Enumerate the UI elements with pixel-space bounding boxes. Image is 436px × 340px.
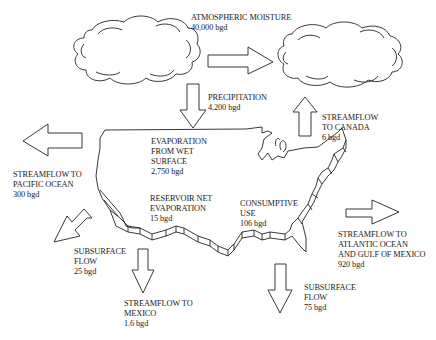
- arrow-subsurface-west-icon: [54, 209, 92, 242]
- label-reservoir-evaporation: RESERVOIR NET EVAPORATION 15 bgd: [150, 194, 212, 224]
- arrow-atmospheric-moisture-icon: [208, 47, 273, 74]
- us-map-outline: [96, 127, 346, 256]
- cloud-right-icon: [278, 22, 402, 87]
- label-streamflow-atlantic: STREAMFLOW TO ATLANTIC OCEAN AND GULF OF…: [338, 230, 425, 270]
- label-consumptive-use: CONSUMPTIVE USE 106 bgd: [240, 199, 298, 229]
- label-precipitation: PRECIPITATION 4,200 bgd: [208, 93, 267, 113]
- cloud-left-icon: [74, 16, 200, 84]
- arrow-streamflow-canada-icon: [293, 97, 317, 136]
- label-streamflow-pacific: STREAMFLOW TO PACIFIC OCEAN 300 bgd: [13, 170, 82, 200]
- arrow-precipitation-icon: [180, 84, 206, 128]
- arrow-streamflow-pacific-icon: [23, 124, 82, 156]
- arrow-subsurface-south-icon: [268, 264, 292, 313]
- label-subsurface-south: SUBSURFACE FLOW 75 bgd: [304, 283, 356, 313]
- label-subsurface-west: SUBSURFACE FLOW 25 bgd: [74, 247, 126, 277]
- label-evaporation-wet-surface: EVAPORATION FROM WET SURFACE 2,750 bgd: [151, 137, 207, 177]
- label-streamflow-mexico: STREAMFLOW TO MEXICO 1.6 bgd: [124, 299, 193, 329]
- label-streamflow-canada: STREAMFLOW TO CANADA 6 bgd: [322, 113, 378, 143]
- label-atmospheric-moisture: ATMOSPHERIC MOISTURE 40,000 bgd: [191, 13, 291, 33]
- arrow-streamflow-atlantic-icon: [346, 200, 399, 224]
- arrow-streamflow-mexico-icon: [132, 249, 154, 293]
